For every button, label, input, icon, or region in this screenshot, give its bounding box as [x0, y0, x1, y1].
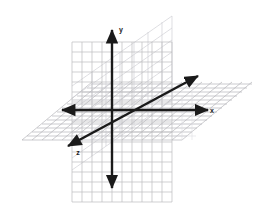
z-axis-label: z: [76, 149, 80, 156]
y-axis-label: y: [119, 26, 123, 34]
xy-plane-front-grid: [72, 42, 172, 202]
coordinate-diagram-figure: x y z: [0, 0, 274, 224]
x-axis-label: x: [210, 107, 214, 114]
axes-svg-canvas: x y z: [0, 0, 274, 224]
